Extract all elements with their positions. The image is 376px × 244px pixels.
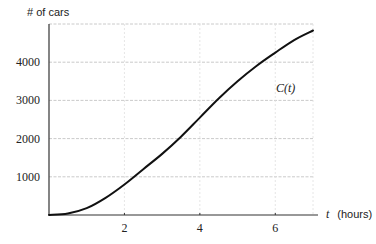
y-tick-label: 3000 [16,93,40,107]
y-tick-label: 4000 [16,55,40,69]
curve-c-of-t [49,30,313,215]
tick-labels: 1000200030004000246 [16,55,278,235]
x-axis-label: t (hours) [326,204,372,221]
y-tick-label: 2000 [16,132,40,146]
y-axis-label: # of cars [27,6,70,18]
y-tick-label: 1000 [16,170,40,184]
x-tick-label: 6 [272,221,278,235]
chart-canvas: 1000200030004000246 # of cars C(t) t (ho… [0,0,376,244]
axes [49,24,318,215]
curve-label: C(t) [276,81,295,95]
curve-label-text: C(t) [276,81,295,95]
chart: 1000200030004000246 # of cars C(t) t (ho… [0,0,376,244]
grid-lines [49,24,313,215]
x-axis-label-unit: (hours) [337,208,372,220]
x-tick-label: 2 [121,221,127,235]
x-axis-label-var: t [326,207,330,221]
x-tick-label: 4 [197,221,203,235]
